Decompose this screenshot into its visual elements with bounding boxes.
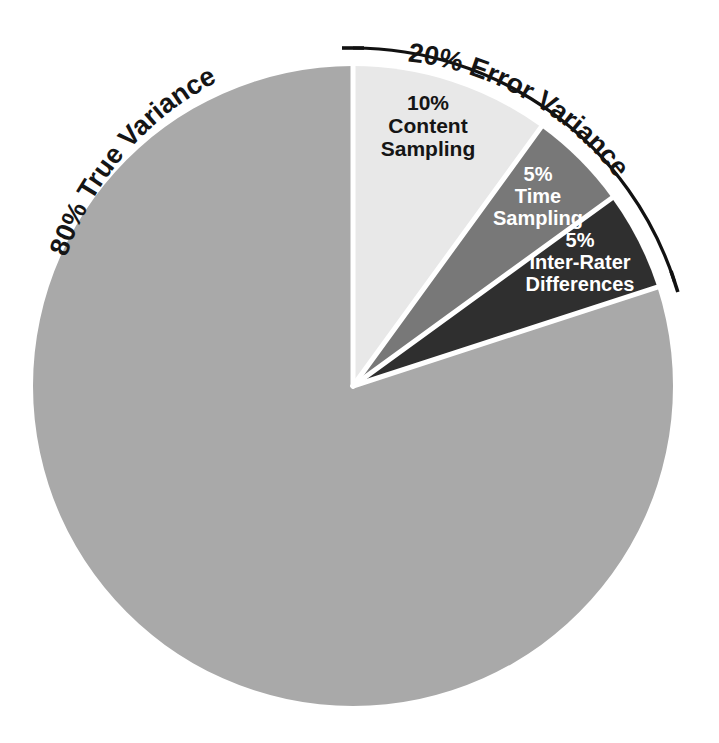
time-sampling-line1: Time [515,185,561,207]
pie-chart-figure: 80% True Variance 20% Error Variance 10%… [0,0,719,743]
inter-rater-line1: Inter-Rater [529,251,630,273]
inter-rater-line2: Differences [526,273,635,295]
pie-slices-group [33,66,673,706]
time-sampling-percent: 5% [524,163,553,185]
pie-chart-svg: 80% True Variance 20% Error Variance 10%… [0,0,719,743]
bracket-tick-end [671,271,678,292]
time-sampling-line2: Sampling [493,207,583,229]
inter-rater-percent: 5% [566,229,595,251]
content-sampling-line1: Content [388,114,467,137]
content-sampling-line2: Sampling [381,137,476,160]
content-sampling-percent: 10% [407,91,449,114]
